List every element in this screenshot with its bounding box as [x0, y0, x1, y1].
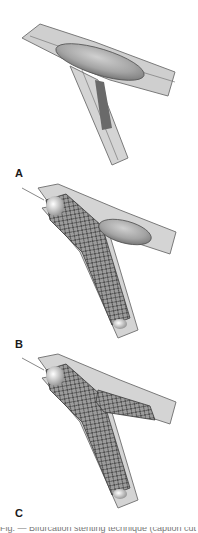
vessel-illustration-b	[0, 180, 198, 350]
vessel-illustration-c	[0, 350, 198, 527]
balloon-tip-distal	[113, 489, 127, 499]
panel-c: C	[0, 350, 198, 527]
balloon-tip-proximal	[46, 366, 64, 386]
panel-label-c: C	[15, 507, 23, 519]
balloon-tip-distal	[113, 319, 127, 329]
panel-label-b: B	[15, 338, 23, 350]
panel-label-a: A	[15, 167, 23, 179]
panel-a: A	[0, 0, 198, 180]
figure-caption: Fig. — Bifurcation stenting technique (c…	[0, 527, 198, 533]
balloon-tip-proximal	[46, 196, 64, 216]
caption-text: Fig. — Bifurcation stenting technique (c…	[0, 527, 198, 533]
panel-b: B	[0, 180, 198, 350]
vessel-illustration-a	[0, 0, 198, 180]
